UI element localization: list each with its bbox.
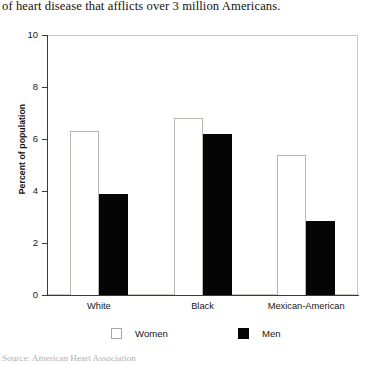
legend-swatch-men-icon: [238, 328, 249, 339]
legend-swatch-women-icon: [111, 328, 122, 339]
bar-chart-figure: Percent of population 0246810 WhiteBlack…: [0, 24, 378, 365]
y-tick-mark: [42, 139, 47, 140]
y-tick-label: 6: [8, 134, 38, 144]
bar-black-women: [174, 118, 203, 295]
x-axis-line: [47, 295, 359, 296]
y-tick-label: 4: [8, 186, 38, 196]
y-tick-label: 8: [8, 82, 38, 92]
y-tick-label: 10: [8, 30, 38, 40]
x-tick-label: Mexican-American: [226, 301, 378, 311]
y-tick-label: 2: [8, 238, 38, 248]
legend-entry-men: Men: [238, 328, 281, 339]
y-tick-label: 0: [8, 290, 38, 300]
y-tick-mark: [42, 295, 47, 296]
y-tick-mark: [42, 243, 47, 244]
chart-legend: Women Men: [0, 327, 378, 345]
y-tick-mark: [42, 191, 47, 192]
y-tick-mark: [42, 35, 47, 36]
source-attribution: Source: American Heart Association: [2, 353, 302, 365]
bar-mexican-american-women: [277, 155, 306, 295]
bar-black-men: [203, 134, 232, 295]
bar-mexican-american-men: [306, 221, 335, 295]
legend-label-women: Women: [135, 328, 168, 339]
y-tick-mark: [42, 87, 47, 88]
legend-entry-women: Women: [111, 328, 168, 339]
caption-text: of heart disease that afflicts over 3 mi…: [2, 0, 376, 14]
legend-label-men: Men: [262, 328, 281, 339]
bar-white-women: [70, 131, 99, 295]
y-axis-line: [47, 35, 48, 296]
bar-white-men: [99, 194, 128, 295]
